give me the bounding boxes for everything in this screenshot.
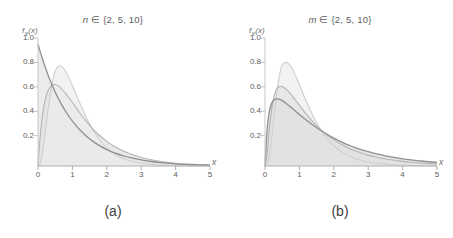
panel-b-ytick-1: 1.0 bbox=[235, 34, 261, 42]
panel-a-ytick-4: 0.4 bbox=[8, 107, 34, 115]
panel-a-ytick-5: 0.2 bbox=[8, 132, 34, 140]
panel-a-y-ticks: 1.0 0.8 0.6 0.4 0.2 bbox=[0, 38, 34, 166]
panel-a-title: n ∈ {2, 5, 10} bbox=[0, 14, 226, 25]
panel-b-xtick-4: 4 bbox=[395, 170, 411, 180]
panel-b-xtick-3: 3 bbox=[360, 170, 376, 180]
panel-b-xtick-2: 2 bbox=[326, 170, 342, 180]
panel-a-xtick-4: 4 bbox=[168, 170, 184, 180]
panel-a-x-ticks: 0 1 2 3 4 5 bbox=[38, 170, 210, 182]
panel-b-svg bbox=[265, 38, 437, 166]
panel-a-xtick-3: 3 bbox=[133, 170, 149, 180]
panel-b-y-ticks: 1.0 0.8 0.6 0.4 0.2 bbox=[227, 38, 261, 166]
panel-b-area-series-1 bbox=[265, 99, 437, 166]
panel-a-xtick-2: 2 bbox=[99, 170, 115, 180]
panel-b: m ∈ {2, 5, 10} fX(x) 1.0 0.8 0.6 0.4 0.2 bbox=[227, 0, 453, 238]
panel-a-fills bbox=[38, 44, 210, 166]
panel-b-ytick-5: 0.2 bbox=[235, 132, 261, 140]
figure-container: n ∈ {2, 5, 10} fX(x) 1.0 0.8 0.6 0.4 0.2 bbox=[0, 0, 453, 238]
panel-b-x-axis-label: x bbox=[439, 157, 443, 167]
panel-b-xtick-1: 1 bbox=[291, 170, 307, 180]
panel-b-title-var: m bbox=[308, 14, 316, 25]
panel-b-title: m ∈ {2, 5, 10} bbox=[227, 14, 453, 25]
panel-a-title-rest: ∈ {2, 5, 10} bbox=[88, 14, 143, 25]
panel-b-plot-area bbox=[265, 38, 437, 166]
panel-b-title-rest: ∈ {2, 5, 10} bbox=[317, 14, 372, 25]
panel-a: n ∈ {2, 5, 10} fX(x) 1.0 0.8 0.6 0.4 0.2 bbox=[0, 0, 226, 238]
panel-b-xtick-0: 0 bbox=[257, 170, 273, 180]
panel-a-ytick-3: 0.6 bbox=[8, 83, 34, 91]
panel-a-xtick-5: 5 bbox=[202, 170, 218, 180]
panel-a-xtick-1: 1 bbox=[64, 170, 80, 180]
panel-a-ytick-1: 1.0 bbox=[8, 34, 34, 42]
panel-a-plot-area bbox=[38, 38, 210, 166]
panel-b-ytick-3: 0.6 bbox=[235, 83, 261, 91]
panel-b-ytick-4: 0.4 bbox=[235, 107, 261, 115]
panel-a-ytick-2: 0.8 bbox=[8, 58, 34, 66]
panel-a-x-axis-label: x bbox=[212, 157, 216, 167]
panel-a-svg bbox=[38, 38, 210, 166]
panel-a-xtick-0: 0 bbox=[30, 170, 46, 180]
panel-b-fills bbox=[265, 62, 437, 166]
panel-b-xtick-5: 5 bbox=[429, 170, 445, 180]
panel-b-x-ticks: 0 1 2 3 4 5 bbox=[265, 170, 437, 182]
panel-a-caption: (a) bbox=[0, 203, 226, 219]
panel-b-ytick-2: 0.8 bbox=[235, 58, 261, 66]
panel-b-caption: (b) bbox=[227, 203, 453, 219]
